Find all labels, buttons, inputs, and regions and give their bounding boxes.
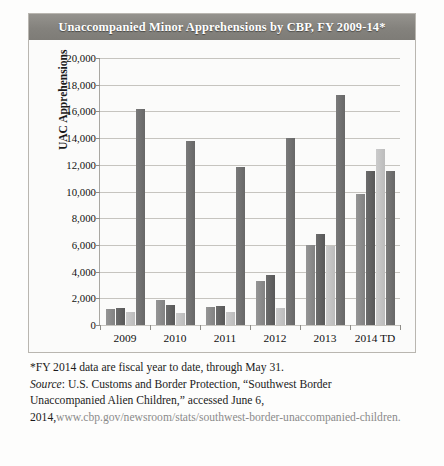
bar <box>276 308 285 325</box>
y-axis-tick-label: 12,000 <box>32 159 96 171</box>
bar-group <box>150 58 200 325</box>
y-axis-tick-label: 10,000 <box>32 186 96 198</box>
source-text-1: : U.S. Customs and Border Protection, “S… <box>62 378 332 391</box>
figure-page: Unaccompanied Minor Apprehensions by CBP… <box>0 0 444 466</box>
source-label: Source <box>30 378 62 391</box>
bar <box>366 171 375 325</box>
bar <box>116 308 125 325</box>
x-axis-tick-label: 2009 <box>114 332 137 344</box>
y-axis-tick-label: 2,000 <box>32 292 96 304</box>
bar <box>166 305 175 325</box>
bar <box>336 95 345 325</box>
bar <box>236 167 245 325</box>
x-axis-tick-mark <box>300 325 301 330</box>
bar <box>376 149 385 325</box>
bar <box>216 306 225 325</box>
bar-group <box>200 58 250 325</box>
page-title: Unaccompanied Minor Apprehensions by CBP… <box>58 20 385 35</box>
bar <box>286 138 295 325</box>
source-url: www.cbp.gov/newsroom/stats/southwest-bor… <box>56 411 400 424</box>
bar <box>316 234 325 325</box>
footnote-line: *FY 2014 data are fiscal year to date, t… <box>30 360 434 377</box>
source-year: 2014, <box>30 411 56 424</box>
y-axis-tick-label: 4,000 <box>32 266 96 278</box>
y-axis-tick-label: 20,000 <box>32 52 96 64</box>
y-axis-tick-label: 14,000 <box>32 132 96 144</box>
y-axis-tick-label: 16,000 <box>32 105 96 117</box>
x-axis-tick-mark <box>200 325 201 330</box>
y-axis-tick-label: 0 <box>32 319 96 331</box>
x-axis-tick-mark <box>100 325 101 330</box>
bar <box>256 281 265 325</box>
bar-group <box>100 58 150 325</box>
bar-group <box>350 58 400 325</box>
x-axis-tick-label: 2011 <box>214 332 236 344</box>
bar <box>386 171 395 325</box>
x-axis-tick-label: 2013 <box>314 332 337 344</box>
x-axis-tick-label: 2014 TD <box>355 332 396 344</box>
bar <box>356 194 365 325</box>
figure-notes: *FY 2014 data are fiscal year to date, t… <box>30 360 434 426</box>
x-axis-tick-mark <box>350 325 351 330</box>
bar <box>156 300 165 325</box>
bar <box>326 246 335 325</box>
bar <box>226 312 235 325</box>
x-axis-tick-mark <box>150 325 151 330</box>
bar <box>176 313 185 325</box>
bar <box>136 109 145 325</box>
x-axis-tick-mark <box>250 325 251 330</box>
source-line-1: Source: U.S. Customs and Border Protecti… <box>30 377 434 394</box>
bar <box>186 141 195 325</box>
y-axis-tick-label: 6,000 <box>32 239 96 251</box>
bar <box>306 245 315 325</box>
bar <box>126 312 135 325</box>
y-axis-tick-label: 18,000 <box>32 79 96 91</box>
plot-area: 20,00018,00016,00014,00012,00010,0008,00… <box>100 58 400 325</box>
bar <box>266 275 275 325</box>
y-axis-tick-label: 8,000 <box>32 212 96 224</box>
x-axis-tick-label: 2012 <box>264 332 287 344</box>
plot-wrapper: UAC Apprehensions 20,00018,00016,00014,0… <box>29 40 415 352</box>
chart-title-banner: Unaccompanied Minor Apprehensions by CBP… <box>29 14 415 40</box>
x-axis-tick-mark <box>400 325 401 330</box>
source-line-2: Unaccompanied Alien Children,” accessed … <box>30 393 434 410</box>
bar <box>206 307 215 325</box>
bar-group <box>300 58 350 325</box>
bar <box>106 309 115 325</box>
source-line-3: 2014,www.cbp.gov/newsroom/stats/southwes… <box>30 410 434 427</box>
x-axis-tick-label: 2010 <box>164 332 187 344</box>
bar-group <box>250 58 300 325</box>
